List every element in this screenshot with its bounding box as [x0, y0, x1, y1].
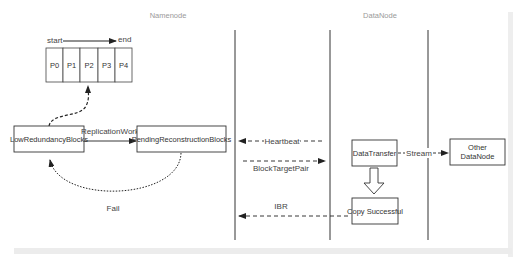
queue-start-label: start [47, 36, 63, 45]
schedule-arrow [49, 86, 89, 126]
pending-reconstruction-blocks-label: PendingReconstructionBlocks [132, 135, 232, 144]
ibr-label: IBR [274, 202, 288, 211]
queue-slot-label: P3 [102, 61, 111, 70]
queue-end-label: end [118, 35, 131, 44]
queue-slot-label: P2 [84, 61, 93, 70]
queue-slot-label: P4 [119, 61, 128, 70]
stream-label: Stream [406, 149, 432, 158]
fail-arrow [50, 153, 181, 191]
datanode-header: DataNode [363, 11, 397, 20]
diagram-canvas: Namenode DataNode start end P0 P1 P2 P3 … [0, 0, 520, 265]
block-target-pair-label: BlockTargetPair [253, 164, 309, 173]
queue: P0 P1 P2 P3 P4 [46, 48, 132, 82]
namenode-header: Namenode [150, 11, 187, 20]
data-transfer-label: DataTransfer [353, 149, 397, 158]
hollow-down-arrow [364, 168, 384, 194]
heartbeat-label: Heartbeat [264, 137, 300, 146]
queue-slot-label: P1 [67, 61, 76, 70]
low-redundancy-blocks-label: LowRedundancyBlocks [10, 135, 88, 144]
copy-successful-label: Copy Successful [347, 207, 403, 216]
other-datanode-label-line1: Other [468, 143, 487, 152]
other-datanode-label-line2: DataNode [461, 152, 495, 161]
queue-slot-label: P0 [50, 61, 59, 70]
fail-label: Fail [107, 204, 120, 213]
